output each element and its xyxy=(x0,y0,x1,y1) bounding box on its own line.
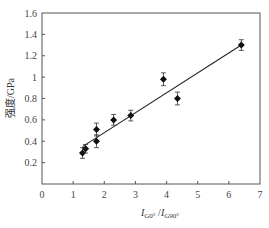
x-tick-label: 7 xyxy=(258,189,263,200)
data-point xyxy=(110,115,117,126)
y-tick-label: 1.4 xyxy=(25,29,38,40)
x-tick-label: 3 xyxy=(133,189,138,200)
plot-border xyxy=(42,13,260,184)
y-tick-label: 0.4 xyxy=(25,136,38,147)
x-axis-label: IG0° /IG90° xyxy=(140,207,179,220)
x-tick-label: 5 xyxy=(195,189,200,200)
plot-area xyxy=(42,13,260,184)
x-tick-label: 2 xyxy=(102,189,107,200)
data-points xyxy=(79,40,245,159)
data-point xyxy=(93,135,100,148)
data-point xyxy=(127,110,134,121)
axis-ticks: 012345670.20.40.60.811.21.41.6 xyxy=(25,8,263,201)
x-tick-label: 4 xyxy=(164,189,169,200)
y-tick-label: 0.2 xyxy=(25,157,38,168)
x-tick-label: 1 xyxy=(71,189,76,200)
y-tick-label: 1.6 xyxy=(25,8,38,19)
data-point xyxy=(160,73,167,86)
x-tick-label: 0 xyxy=(40,189,45,200)
scatter-chart: 012345670.20.40.60.811.21.41.6 强度/GPa IG… xyxy=(0,0,269,228)
data-point xyxy=(238,40,245,51)
y-tick-label: 1 xyxy=(32,72,37,83)
y-tick-label: 0.8 xyxy=(25,93,38,104)
fit-line xyxy=(82,45,241,147)
x-tick-label: 6 xyxy=(226,189,231,200)
data-point xyxy=(174,92,181,105)
data-point xyxy=(93,123,100,136)
y-tick-label: 1.2 xyxy=(25,50,38,61)
y-tick-label: 0.6 xyxy=(25,114,38,125)
y-axis-label: 强度/GPa xyxy=(4,77,16,118)
